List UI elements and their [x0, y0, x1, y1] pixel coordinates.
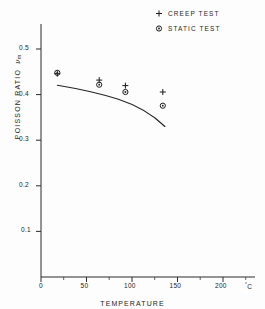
chart-figure: 0.5 0.4 0.3 0.2 0.1 0 50 100 150 200 °C …	[0, 0, 265, 309]
legend-marker-static	[156, 26, 161, 31]
fit-curve	[57, 85, 164, 126]
x-tick-label-2: 100	[124, 283, 136, 290]
x-tick-label-3: 150	[170, 283, 182, 290]
celsius-letter: C	[247, 283, 252, 290]
y-tick-label-3: 0.2	[19, 182, 29, 189]
series-creep-markers	[54, 71, 166, 95]
chart-plot-area	[0, 0, 265, 309]
y-axis-title-text: POISSON RATIO	[14, 69, 21, 139]
x-axis-unit: °C	[245, 282, 252, 291]
x-axis-title-text: TEMPERATURE	[100, 300, 164, 307]
data-point-creep-2	[122, 83, 128, 89]
y-axis-title: POISSON RATIOνm	[6, 49, 24, 145]
series-static-markers	[55, 70, 166, 108]
legend-label-creep: CREEP TEST	[168, 11, 220, 18]
y-tick-label-4: 0.1	[21, 227, 31, 234]
legend-label-static: STATIC TEST	[168, 26, 221, 33]
x-tick-label-0: 0	[39, 283, 43, 290]
x-tick-label-1: 50	[81, 283, 89, 290]
y-axis-symbol-subscript: m	[16, 55, 22, 60]
x-tick-label-4: 200	[215, 283, 227, 290]
y-axis-symbol: ν	[13, 59, 22, 64]
x-axis-title: TEMPERATURE	[0, 292, 265, 309]
y-tick-marks	[36, 49, 41, 231]
data-point-creep-3	[160, 89, 166, 95]
data-point-static-2	[123, 89, 128, 94]
legend-marker-creep	[156, 11, 162, 17]
data-point-static-3	[160, 103, 165, 108]
